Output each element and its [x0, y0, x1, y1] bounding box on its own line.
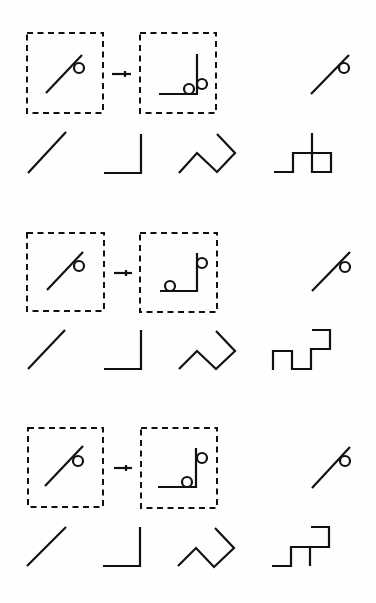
shape-zigzag: [179, 134, 235, 173]
result-loop-icon: [340, 456, 350, 466]
source-loop-icon: [74, 261, 84, 271]
diagram-row-1: [27, 33, 349, 173]
shape-steps: [273, 330, 330, 370]
target-dashed-box: [140, 33, 216, 113]
shape-zigzag: [179, 331, 235, 369]
shape-corner: [104, 330, 141, 369]
result-loop-icon: [340, 262, 350, 272]
target-loop-icon: [197, 258, 207, 268]
shape-steps: [272, 527, 329, 566]
target-loop-icon: [197, 453, 207, 463]
shape-diagonal: [27, 527, 66, 566]
target-loop-icon: [184, 84, 194, 94]
source-loop-icon: [74, 63, 84, 73]
source-loop-icon: [73, 456, 83, 466]
shape-diagonal: [28, 330, 65, 369]
shape-corner: [104, 134, 141, 173]
source-dashed-box: [28, 428, 103, 507]
target-loop-icon: [165, 281, 175, 291]
source-diagonal-stroke: [46, 55, 82, 93]
result-loop-icon: [339, 63, 349, 73]
shape-zigzag: [178, 528, 234, 567]
target-loop-icon: [182, 477, 192, 487]
result-diagonal-stroke: [312, 447, 350, 488]
diagram-row-2: [27, 233, 350, 370]
target-dashed-box: [141, 428, 217, 508]
shape-diagonal: [28, 132, 66, 173]
diagram-row-3: [27, 428, 350, 567]
result-diagonal-stroke: [311, 55, 349, 94]
target-dashed-box: [140, 233, 217, 312]
diagram-stage: [0, 0, 376, 603]
shape-corner: [103, 527, 140, 566]
target-loop-icon: [197, 79, 207, 89]
shape-steps: [274, 133, 331, 172]
diagram-canvas: Three rows of symbol-grouping examples: …: [0, 0, 376, 603]
